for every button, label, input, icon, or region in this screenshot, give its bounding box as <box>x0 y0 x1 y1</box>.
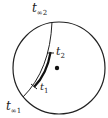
label-subscript: 2 <box>60 52 64 60</box>
label-t-infinity-1: t∞1 <box>6 100 21 115</box>
label-subscript: ∞2 <box>37 9 47 17</box>
label-subscript: ∞1 <box>11 107 21 115</box>
label-t-infinity-2: t∞2 <box>32 2 47 17</box>
label-t1: t1 <box>40 82 49 95</box>
label-t2: t2 <box>56 46 65 60</box>
center-dot <box>55 66 59 70</box>
label-subscript: 1 <box>44 87 48 95</box>
